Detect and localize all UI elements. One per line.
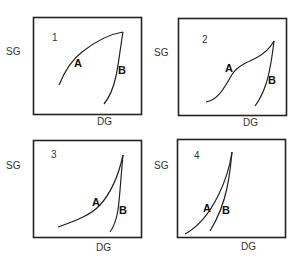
panel-3-frame — [34, 141, 142, 238]
panel-1-curve-a — [59, 32, 123, 85]
panel-3-ylabel: SG — [6, 160, 21, 171]
panel-2-ylabel: SG — [154, 47, 169, 58]
panel-1-number: 1 — [52, 32, 58, 43]
panel-4-xlabel: DG — [241, 241, 256, 252]
diagram-figure: 1 SG DG A B 2 SG DG A B 3 SG DG A B 4 SG… — [0, 0, 300, 261]
panel-2-curve-a — [206, 41, 274, 102]
panel-2-label-b: B — [268, 74, 276, 86]
panel-3-label-b: B — [119, 204, 127, 216]
panel-3: 3 SG DG A B — [6, 141, 142, 254]
panel-1-label-b: B — [118, 64, 126, 76]
panel-1-label-a: A — [74, 57, 82, 69]
panel-4-label-b: B — [222, 204, 230, 216]
panel-1: 1 SG DG A B — [6, 18, 142, 128]
panel-4-number: 4 — [194, 150, 200, 161]
panel-3-number: 3 — [51, 149, 57, 160]
panel-1-ylabel: SG — [6, 46, 21, 57]
panel-4-curve-a — [185, 152, 232, 234]
panel-4: 4 SG DG A B — [154, 140, 286, 253]
panel-2-xlabel: DG — [243, 117, 258, 128]
panel-2-number: 2 — [202, 34, 208, 45]
panel-3-xlabel: DG — [96, 242, 111, 253]
panel-3-label-a: A — [92, 196, 100, 208]
panel-2-label-a: A — [225, 62, 233, 74]
panel-3-curve-b — [110, 155, 123, 232]
panel-4-ylabel: SG — [154, 160, 169, 171]
panel-1-xlabel: DG — [97, 116, 112, 127]
panel-4-curve-b — [210, 152, 232, 231]
panel-3-curve-a — [58, 155, 123, 227]
panel-4-label-a: A — [203, 202, 211, 214]
panel-2: 2 SG DG A B — [154, 19, 287, 129]
